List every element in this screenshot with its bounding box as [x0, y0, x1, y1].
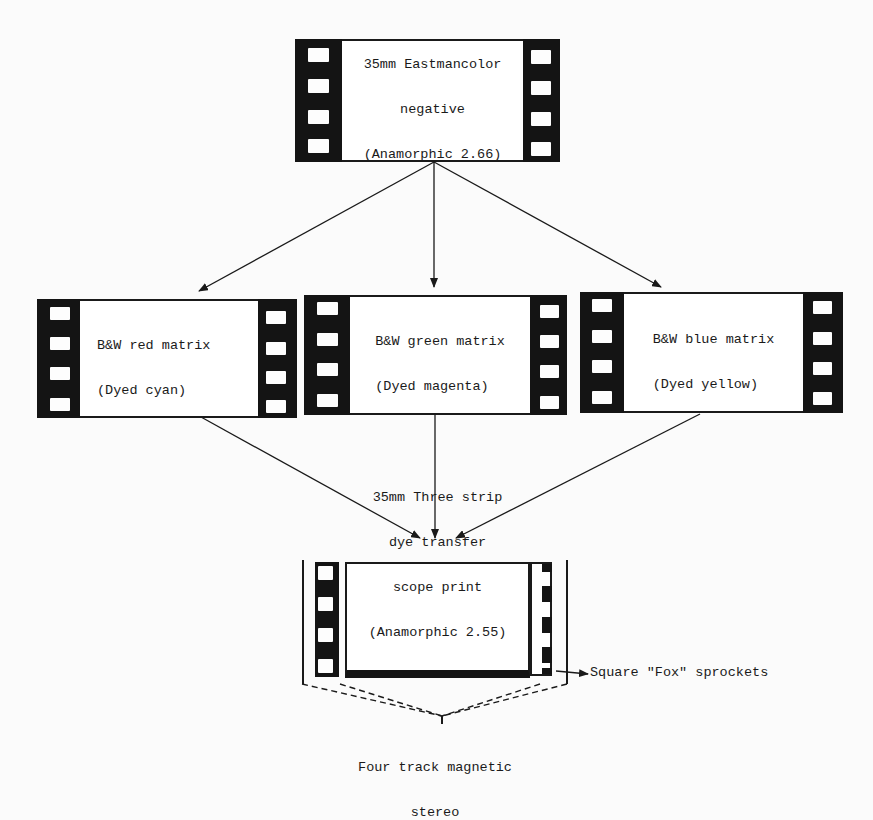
- green-matrix-label-line1: B&W green matrix: [375, 334, 505, 349]
- sprocket-hole-icon: [308, 79, 329, 93]
- print-film-frame: 35mm Three strip dye transfer scope prin…: [302, 560, 567, 684]
- sprocket-hole-icon: [540, 365, 559, 378]
- magnetic-label-line2: stereo: [330, 805, 540, 820]
- left-film-edge: [302, 560, 304, 684]
- dashed-leader-2: [340, 684, 442, 716]
- right-perforation-strip: [523, 39, 560, 162]
- sprocket-hole-icon: [318, 628, 333, 642]
- negative-picture-area: 35mm Eastmancolor negative (Anamorphic 2…: [342, 39, 523, 162]
- green-matrix-picture-area: B&W green matrix (Dyed magenta): [350, 295, 530, 415]
- sprocket-hole-icon: [592, 360, 612, 373]
- dashed-leader-1: [302, 684, 442, 716]
- sprocket-hole-icon: [813, 301, 832, 314]
- red-matrix-label-line2: (Dyed cyan): [97, 383, 210, 398]
- red-matrix-label-line1: B&W red matrix: [97, 338, 210, 353]
- left-perforation-strip: [580, 292, 624, 413]
- fox-sprockets-annotation: Square "Fox" sprockets: [590, 665, 768, 680]
- negative-label-line3: (Anamorphic 2.66): [364, 147, 502, 162]
- red-matrix-film-frame: B&W red matrix (Dyed cyan): [37, 299, 297, 418]
- sprocket-hole-icon: [266, 400, 286, 413]
- blue-matrix-label-line2: (Dyed yellow): [653, 377, 775, 392]
- sprocket-hole-icon: [318, 566, 333, 580]
- negative-label-line1: 35mm Eastmancolor: [364, 57, 502, 72]
- sprocket-hole-icon: [813, 392, 832, 405]
- blue-matrix-label-line1: B&W blue matrix: [653, 332, 775, 347]
- sprocket-hole-icon: [531, 142, 551, 156]
- fox-sprocket-bar: [542, 647, 552, 663]
- left-perforation-strip: [295, 39, 342, 162]
- sprocket-hole-icon: [318, 659, 333, 673]
- left-perforation-strip: [37, 299, 80, 418]
- fox-sprocket-bar: [542, 617, 552, 633]
- cut-off-title: [330, 0, 550, 3]
- right-fox-sprocket-strip: [530, 562, 552, 676]
- sprocket-hole-icon: [266, 311, 286, 324]
- fox-sprocket-bar: [542, 586, 552, 602]
- sprocket-hole-icon: [317, 363, 338, 376]
- sprocket-hole-icon: [317, 333, 338, 346]
- dashed-leader-3: [442, 684, 540, 716]
- print-label-line1: 35mm Three strip: [369, 490, 507, 505]
- sprocket-hole-icon: [531, 81, 551, 95]
- green-matrix-film-frame: B&W green matrix (Dyed magenta): [304, 295, 567, 415]
- left-perforation-strip: [315, 562, 339, 677]
- sprocket-hole-icon: [317, 302, 338, 315]
- sprocket-hole-icon: [50, 337, 70, 350]
- fox-sprocket-bar: [542, 564, 552, 572]
- negative-label-line2: negative: [364, 102, 502, 117]
- sprocket-hole-icon: [50, 367, 70, 380]
- right-perforation-strip: [803, 292, 843, 413]
- sprocket-hole-icon: [50, 398, 70, 411]
- sprocket-hole-icon: [540, 335, 559, 348]
- sprocket-hole-icon: [592, 299, 612, 312]
- negative-film-frame: 35mm Eastmancolor negative (Anamorphic 2…: [295, 39, 560, 162]
- sprocket-hole-icon: [308, 139, 329, 153]
- sprocket-hole-icon: [50, 307, 70, 320]
- green-matrix-label-line2: (Dyed magenta): [375, 379, 505, 394]
- sprocket-hole-icon: [592, 391, 612, 404]
- magnetic-stereo-annotation: Four track magnetic stereo: [330, 730, 540, 820]
- print-label-line4: (Anamorphic 2.55): [369, 625, 507, 640]
- sprocket-hole-icon: [266, 371, 286, 384]
- sprocket-hole-icon: [266, 342, 286, 355]
- red-matrix-picture-area: B&W red matrix (Dyed cyan): [80, 299, 258, 418]
- sprocket-hole-icon: [531, 50, 551, 64]
- print-picture-area: 35mm Three strip dye transfer scope prin…: [345, 562, 530, 678]
- right-perforation-strip: [258, 299, 297, 418]
- sprocket-hole-icon: [308, 48, 329, 62]
- fox-sprocket-bar: [542, 668, 552, 674]
- right-perforation-strip: [530, 295, 567, 415]
- sprocket-hole-icon: [531, 112, 551, 126]
- magnetic-label-line1: Four track magnetic: [330, 760, 540, 775]
- sprocket-hole-icon: [813, 332, 832, 345]
- blue-matrix-picture-area: B&W blue matrix (Dyed yellow): [624, 292, 803, 413]
- sprocket-hole-icon: [813, 362, 832, 375]
- dashed-leader-4: [442, 684, 567, 716]
- sprocket-hole-icon: [592, 330, 612, 343]
- print-label-line3: scope print: [369, 580, 507, 595]
- sprocket-hole-icon: [540, 305, 559, 318]
- sprocket-hole-icon: [308, 110, 329, 124]
- sprocket-hole-icon: [540, 396, 559, 409]
- print-label-line2: dye transfer: [369, 535, 507, 550]
- sprocket-hole-icon: [318, 597, 333, 611]
- left-perforation-strip: [304, 295, 350, 415]
- sprocket-hole-icon: [317, 394, 338, 407]
- right-film-edge: [566, 560, 568, 684]
- blue-matrix-film-frame: B&W blue matrix (Dyed yellow): [580, 292, 843, 413]
